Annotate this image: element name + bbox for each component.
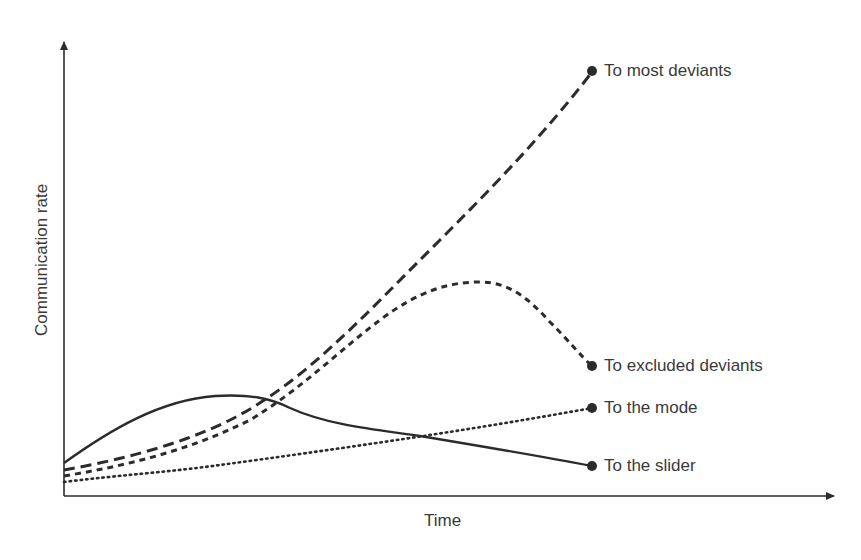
series-to-the-mode <box>64 408 592 482</box>
series-to-most-deviants <box>64 72 592 470</box>
series-label-most-deviants: To most deviants <box>604 61 732 81</box>
series-label-excluded-deviants: To excluded deviants <box>604 356 763 376</box>
endpoint-marker-the-slider <box>587 461 597 471</box>
y-axis-label: Communication rate <box>32 184 52 336</box>
series-label-the-mode: To the mode <box>604 398 698 418</box>
endpoint-marker-the-mode <box>587 403 597 413</box>
series-to-the-slider <box>64 396 592 467</box>
series-label-the-slider: To the slider <box>604 456 696 476</box>
endpoint-marker-most-deviants <box>587 66 597 76</box>
x-axis-label: Time <box>424 511 461 531</box>
series-to-excluded-deviants <box>64 282 592 476</box>
endpoint-marker-excluded-deviants <box>587 361 597 371</box>
chart-canvas <box>0 0 861 560</box>
